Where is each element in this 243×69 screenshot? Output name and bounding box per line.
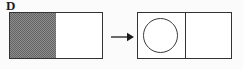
after-rectangle bbox=[137, 12, 232, 59]
before-rectangle bbox=[9, 12, 103, 59]
after-divider-line bbox=[185, 13, 186, 58]
after-empty-half bbox=[185, 13, 232, 58]
arrow-right-icon bbox=[111, 29, 134, 41]
figure-panel-d: D bbox=[0, 0, 243, 69]
circle-outline-icon bbox=[143, 18, 178, 53]
before-empty-half bbox=[56, 13, 102, 58]
before-shaded-half bbox=[10, 13, 56, 58]
